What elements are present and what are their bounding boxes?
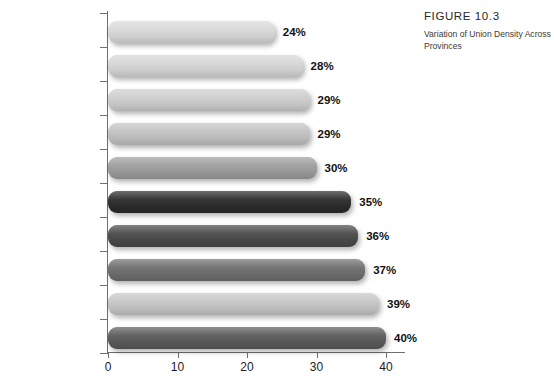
y-axis-tick [100,217,108,218]
y-axis-tick [100,13,108,14]
bar-value-label: 30% [325,157,348,179]
bar-gloss [108,123,310,145]
bar-gloss [108,55,303,77]
figure-container: FIGURE 10.3 Variation of Union Density A… [0,0,554,387]
bar-row: Nova Scotia30% [0,157,420,179]
x-axis-line [107,352,405,353]
bar [108,123,310,145]
x-axis-tick-label: 0 [105,360,112,374]
bar-gloss [108,157,317,179]
bar-value-label: 36% [366,225,389,247]
bar-value-label: 37% [373,259,396,281]
bar [108,21,275,43]
bar-row: Manitoba37% [0,259,420,281]
x-axis-tick [386,352,387,358]
y-axis-tick [100,251,108,252]
bar-gloss [108,259,365,281]
bar-gloss [108,327,386,349]
bar [108,259,365,281]
figure-number: FIGURE 10.3 [424,10,552,22]
bar-gloss [108,225,358,247]
x-axis-tick [178,352,179,358]
bar-gloss [108,293,379,315]
y-axis-tick [100,149,108,150]
bar [108,225,358,247]
bar [108,293,379,315]
bar-value-label: 29% [318,123,341,145]
x-axis-tick-label: 30 [310,360,323,374]
bar-value-label: 39% [387,293,410,315]
x-axis-tick-label: 10 [171,360,184,374]
bar-row: Saskatchewan35% [0,191,420,213]
bar-row: Quebec40% [0,327,420,349]
bar [108,327,386,349]
bar-value-label: 24% [283,21,306,43]
bar-row: B.C.36% [0,225,420,247]
bar-row: Newfoundland39% [0,293,420,315]
bar-row: New Brunswick29% [0,123,420,145]
bar-row: Ontario28% [0,55,420,77]
bar [108,89,310,111]
bar [108,157,317,179]
bar-gloss [108,89,310,111]
y-axis-tick [100,81,108,82]
y-axis-tick [100,319,108,320]
x-axis-tick [108,352,109,358]
bar-gloss [108,191,351,213]
bar [108,55,303,77]
bar-value-label: 35% [359,191,382,213]
x-axis-tick [317,352,318,358]
bar-value-label: 28% [311,55,334,77]
x-axis-tick-label: 40 [379,360,392,374]
x-axis-tick [247,352,248,358]
figure-description: Variation of Union Density Across Provin… [424,29,552,52]
bar-value-label: 29% [318,89,341,111]
bar-row: Alberta24% [0,21,420,43]
y-axis-tick [100,285,108,286]
y-axis-tick [100,183,108,184]
bar-row: P.E.I.29% [0,89,420,111]
bar-value-label: 40% [394,327,417,349]
y-axis-tick [100,353,108,354]
x-axis-tick-label: 20 [240,360,253,374]
y-axis-tick [100,115,108,116]
bar-gloss [108,21,275,43]
bar [108,191,351,213]
figure-caption: FIGURE 10.3 Variation of Union Density A… [424,10,552,52]
y-axis-tick [100,47,108,48]
plot-area: 010203040 Alberta24%Ontario28%P.E.I.29%N… [0,0,420,387]
